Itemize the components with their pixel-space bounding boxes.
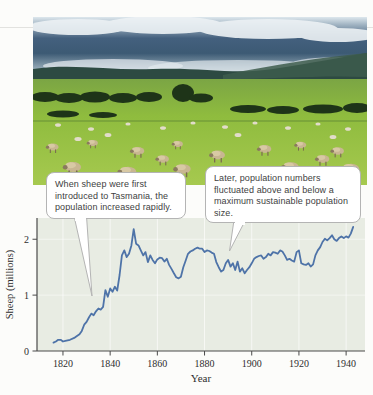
callout-right-text: Later, population numbers fluctuated abo… (214, 173, 348, 218)
callout-left-text: When sheep were first introduced to Tasm… (55, 179, 172, 212)
x-tick-label: 1880 (195, 358, 215, 369)
callout-right: Later, population numbers fluctuated abo… (205, 166, 361, 223)
plot-background (37, 218, 365, 351)
y-tick-label: 2 (24, 234, 29, 245)
pasture-photo-svg (33, 17, 367, 185)
x-tick-label: 1860 (147, 358, 167, 369)
callout-left: When sheep were first introduced to Tasm… (46, 172, 186, 219)
x-axis-title: Year (191, 372, 212, 384)
chart-svg: 1820184018601880190019201940012YearSheep… (0, 210, 373, 395)
sheep-population-chart: 1820184018601880190019201940012YearSheep… (0, 210, 373, 395)
x-tick-label: 1940 (336, 358, 356, 369)
x-tick-label: 1840 (100, 358, 120, 369)
y-tick-label: 0 (24, 346, 29, 357)
y-axis-title: Sheep (millions) (4, 249, 16, 319)
x-tick-label: 1900 (242, 358, 262, 369)
callout-left-tail-join (75, 217, 86, 221)
callout-right-tail-join (235, 221, 245, 225)
pasture-photo (33, 17, 367, 185)
x-tick-label: 1920 (289, 358, 309, 369)
x-tick-label: 1820 (53, 358, 73, 369)
y-tick-label: 1 (24, 290, 29, 301)
